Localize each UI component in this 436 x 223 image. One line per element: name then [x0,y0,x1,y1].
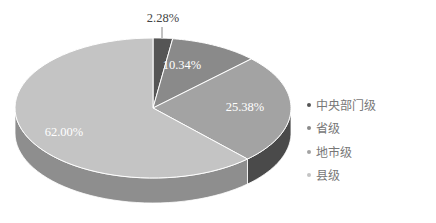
legend-label: 地市级 [316,143,352,161]
legend-dot-icon [307,150,311,154]
legend-item: 中央部门级 [307,93,376,117]
legend-item: 地市级 [307,140,376,164]
pie-chart: 2.28%10.34%25.38%62.00% [0,0,300,223]
pie-label: 62.00% [45,125,84,139]
legend-dot-icon [307,173,311,177]
legend-item: 县级 [307,164,376,188]
legend-dot-icon [307,126,311,130]
legend-label: 中央部门级 [316,96,376,114]
legend-dot-icon [307,103,311,107]
legend-label: 省级 [316,119,340,137]
pie-label: 2.28% [147,11,179,25]
pie-label: 10.34% [163,58,202,72]
pie-label: 25.38% [226,100,265,114]
legend-label: 县级 [316,166,340,184]
legend-item: 省级 [307,117,376,141]
legend: 中央部门级 省级 地市级 县级 [307,93,376,187]
